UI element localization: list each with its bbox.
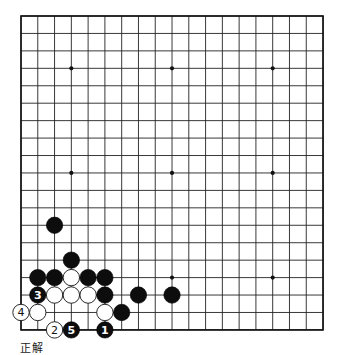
black-stone[interactable] xyxy=(97,287,113,303)
black-stone[interactable] xyxy=(30,269,46,285)
white-stone[interactable] xyxy=(80,287,96,303)
star-point xyxy=(69,171,73,175)
black-stone[interactable] xyxy=(80,269,96,285)
star-point xyxy=(170,276,174,280)
black-stone[interactable] xyxy=(130,287,146,303)
white-stone[interactable] xyxy=(46,287,62,303)
star-point xyxy=(271,276,275,280)
white-stone-icon xyxy=(30,304,46,320)
white-stone-move-2[interactable]: 2 xyxy=(46,322,62,338)
go-board[interactable]: 34251 xyxy=(0,0,342,340)
black-stone-move-5[interactable]: 5 xyxy=(63,322,79,338)
star-point xyxy=(170,66,174,70)
black-stone[interactable] xyxy=(46,269,62,285)
white-stone-icon xyxy=(63,287,79,303)
white-stone-move-4[interactable]: 4 xyxy=(13,304,29,320)
black-stone[interactable] xyxy=(164,287,180,303)
black-stone-icon xyxy=(46,217,62,233)
white-stone-icon xyxy=(97,304,113,320)
white-stone-icon xyxy=(46,287,62,303)
black-stone-icon xyxy=(46,269,62,285)
white-stone-icon xyxy=(63,269,79,285)
black-stone-icon xyxy=(63,252,79,268)
black-stone[interactable] xyxy=(46,217,62,233)
black-stone-icon xyxy=(97,269,113,285)
move-number: 1 xyxy=(101,324,109,337)
black-stone[interactable] xyxy=(97,269,113,285)
white-stone-icon xyxy=(80,287,96,303)
black-stone-icon xyxy=(164,287,180,303)
diagram-caption: 正解 xyxy=(20,339,44,355)
white-stone[interactable] xyxy=(63,287,79,303)
move-number: 4 xyxy=(18,306,25,319)
black-stone[interactable] xyxy=(63,252,79,268)
star-point xyxy=(271,171,275,175)
black-stone-move-1[interactable]: 1 xyxy=(97,322,113,338)
white-stone[interactable] xyxy=(63,269,79,285)
black-stone-move-3[interactable]: 3 xyxy=(30,287,46,303)
move-number: 2 xyxy=(51,324,58,337)
white-stone[interactable] xyxy=(97,304,113,320)
white-stone[interactable] xyxy=(30,304,46,320)
black-stone-icon xyxy=(30,269,46,285)
star-point xyxy=(271,66,275,70)
black-stone-icon xyxy=(130,287,146,303)
star-point xyxy=(170,171,174,175)
black-stone-icon xyxy=(80,269,96,285)
black-stone-icon xyxy=(97,287,113,303)
star-point xyxy=(69,66,73,70)
move-number: 3 xyxy=(34,289,42,302)
black-stone-icon xyxy=(113,304,129,320)
black-stone[interactable] xyxy=(113,304,129,320)
move-number: 5 xyxy=(68,324,76,337)
